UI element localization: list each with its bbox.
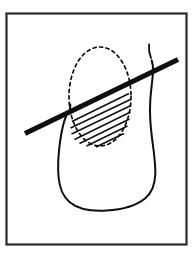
illustration-canvas bbox=[0, 0, 195, 257]
figure-panel bbox=[0, 0, 195, 257]
